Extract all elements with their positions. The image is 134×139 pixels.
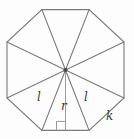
label-slant-right: l (84, 91, 88, 103)
octagon-diagram-svg (0, 0, 134, 139)
label-side: k (106, 110, 113, 122)
octagon-figure: l r l k (0, 0, 134, 139)
center-point (63, 68, 67, 72)
label-slant-left: l (37, 91, 41, 103)
label-apothem: r (61, 100, 67, 112)
